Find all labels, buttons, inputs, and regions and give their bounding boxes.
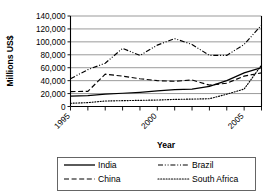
legend-label-india: India (98, 160, 117, 170)
y-axis-title: Millions US$ (5, 35, 15, 86)
chart-legend: IndiaBrazilChinaSouth Africa (58, 158, 256, 191)
y-tick-label: 80,000 (40, 51, 65, 60)
y-tick-label: 60,000 (40, 64, 65, 73)
y-tick-label: 40,000 (40, 77, 65, 86)
y-tick-label: 140,000 (36, 12, 66, 21)
legend-label-brazil: Brazil (192, 160, 214, 170)
x-axis-title: Year (157, 140, 176, 150)
legend-label-south-africa: South Africa (192, 174, 239, 184)
y-tick-label: 0 (61, 103, 66, 112)
y-tick-label: 120,000 (36, 25, 66, 34)
legend-label-china: China (98, 174, 121, 184)
line-chart: 020,00040,00060,00080,000100,000120,0001… (0, 0, 275, 194)
chart-figure: 020,00040,00060,00080,000100,000120,0001… (0, 0, 275, 194)
y-tick-label: 100,000 (36, 38, 66, 47)
y-tick-label: 20,000 (40, 90, 65, 99)
